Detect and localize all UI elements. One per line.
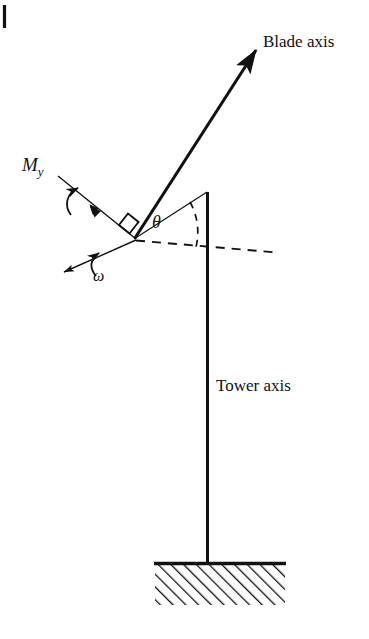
moment-symbol: M <box>22 154 38 175</box>
figure-canvas: Blade axis Tower axis My ω θ <box>0 0 369 639</box>
hatched-foundation <box>154 563 286 605</box>
right-angle-marker <box>119 214 139 234</box>
blade-axis-label: Blade axis <box>263 33 334 50</box>
tilt-angle-label: θ <box>152 213 161 231</box>
tower-axis-label: Tower axis <box>216 377 291 394</box>
moment-rotation-curved-arrow <box>67 188 78 215</box>
blade-axis-arrow <box>135 50 256 238</box>
moment-axis-arrow <box>58 176 136 239</box>
tilt-angle-arc <box>190 202 198 247</box>
turbine-schematic-svg <box>0 0 369 639</box>
moment-subscript: y <box>38 164 44 179</box>
omega-label: ω <box>93 268 104 284</box>
moment-my-label: My <box>22 155 44 178</box>
